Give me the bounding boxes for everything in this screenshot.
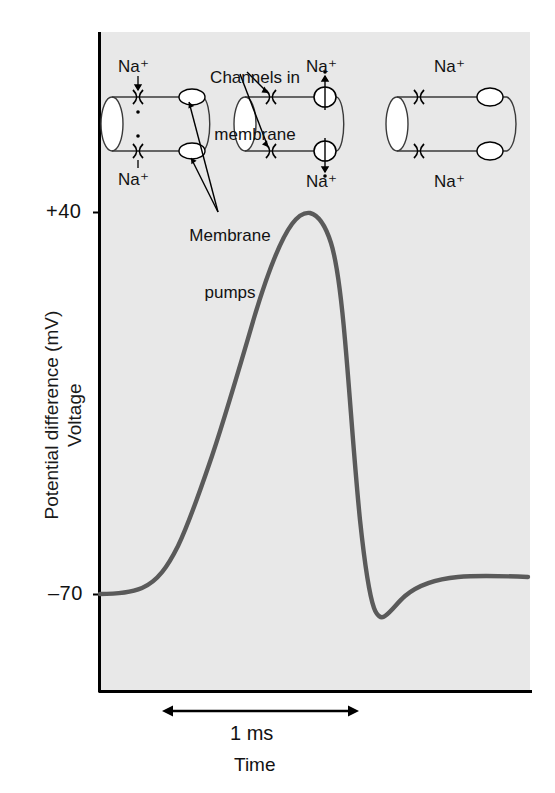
x-axis-title: Time xyxy=(234,754,276,775)
ion-label-axon3-top: Na⁺ xyxy=(434,57,465,76)
y-axis-title-line1: Potential difference (mV) xyxy=(40,280,63,550)
y-axis-title-line2: Voltage xyxy=(63,280,86,550)
callout-channels-line1: Channels in xyxy=(190,68,320,87)
axon3-left-cap xyxy=(386,97,408,151)
y-axis-title: Potential difference (mV) Voltage xyxy=(40,280,86,550)
scale-bar-1ms xyxy=(162,706,359,717)
ion-label-axon2-top: Na⁺ xyxy=(306,57,337,76)
callout-membrane-pumps: Membrane pumps xyxy=(170,188,290,340)
axon3-pump-bottom xyxy=(477,142,503,160)
callout-channels-in-membrane: Channels in membrane xyxy=(190,30,320,182)
scale-bar-label: 1 ms xyxy=(230,722,273,744)
ion-label-axon3-bottom: Na⁺ xyxy=(434,172,465,191)
ion-label-axon1-bottom: Na⁺ xyxy=(118,170,149,189)
callout-channels-line2: membrane xyxy=(190,125,320,144)
action-potential-figure: +40 –70 Potential difference (mV) Voltag… xyxy=(0,0,555,793)
axon3-pump-top xyxy=(477,88,503,106)
ion-label-axon2-bottom: Na⁺ xyxy=(306,172,337,191)
scale-bar-arrow-right xyxy=(348,706,359,717)
scale-bar-arrow-left xyxy=(162,706,173,717)
y-tick-label-plus40: +40 xyxy=(46,200,81,222)
ion-label-axon1-top: Na⁺ xyxy=(118,57,149,76)
y-tick-label-minus70: –70 xyxy=(48,582,83,604)
callout-pumps-line1: Membrane xyxy=(170,226,290,245)
axon1-left-cap xyxy=(101,97,123,151)
callout-pumps-line2: pumps xyxy=(170,283,290,302)
